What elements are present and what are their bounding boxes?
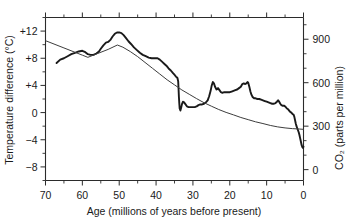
plot-frame: [46, 18, 304, 181]
y2-tick-label: 300: [313, 120, 331, 132]
y-axis-title: Temperature difference (°C): [3, 35, 15, 164]
data-series: [46, 32, 304, 147]
x-tick-label: 40: [150, 189, 162, 201]
y-tick-label: +4: [26, 79, 38, 91]
x-tick-label: 60: [77, 189, 89, 201]
axis-tick-labels: 706050403020100+12+8+40−4−89006003000: [20, 25, 330, 200]
x-tick-label: 10: [261, 189, 273, 201]
y-tick-label: −8: [26, 161, 38, 173]
chart-canvas: 706050403020100+12+8+40−4−89006003000 Te…: [0, 0, 352, 221]
y-tick-label: 0: [32, 107, 38, 119]
y-tick-label: +12: [20, 25, 38, 37]
y2-tick-label: 0: [313, 164, 319, 176]
axis-titles: Temperature difference (°C) Age (million…: [3, 35, 345, 217]
y2-axis-title: CO₂ (parts per million): [333, 66, 345, 170]
x-tick-label: 30: [187, 189, 199, 201]
x-tick-label: 50: [113, 189, 125, 201]
x-tick-label: 20: [224, 189, 236, 201]
y2-tick-label: 900: [313, 33, 331, 45]
y-tick-label: +8: [26, 52, 38, 64]
y-tick-label: −4: [26, 134, 38, 146]
temperature-line-series: [57, 32, 304, 147]
axis-ticks: [41, 13, 309, 186]
x-tick-label: 70: [40, 189, 52, 201]
y2-tick-label: 600: [313, 77, 331, 89]
chart-figure: 706050403020100+12+8+40−4−89006003000 Te…: [0, 0, 352, 221]
co2-line-series: [46, 41, 304, 130]
x-tick-label: 0: [301, 189, 307, 201]
x-axis-title: Age (millions of years before present): [87, 205, 262, 217]
